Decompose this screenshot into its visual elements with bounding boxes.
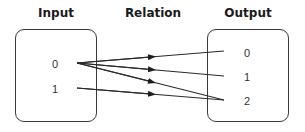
input-element-1: 1 xyxy=(52,83,58,95)
output-element-1: 1 xyxy=(244,71,250,83)
relation-arrows xyxy=(0,0,305,132)
input-element-0: 0 xyxy=(52,58,58,70)
arrow-0-to-0 xyxy=(77,51,224,63)
output-element-2: 2 xyxy=(244,95,250,107)
output-element-0: 0 xyxy=(244,47,250,59)
arrow-0-to-1 xyxy=(77,63,224,76)
